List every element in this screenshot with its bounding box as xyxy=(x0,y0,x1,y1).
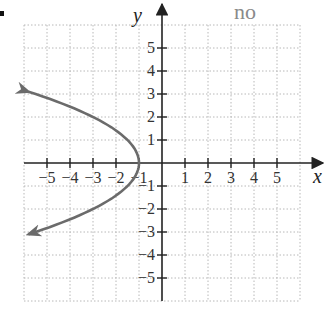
y-tick-label: 4 xyxy=(147,62,155,79)
x-tick-label: 2 xyxy=(204,169,212,186)
y-tick-label: 3 xyxy=(147,85,155,102)
y-tick-label: −2 xyxy=(138,200,155,217)
x-axis-label: x xyxy=(312,165,322,187)
graph: −5−4−3−2−11234554321−1−2−3−4−5 y x no xyxy=(0,0,326,316)
y-tick-label: −1 xyxy=(138,177,155,194)
y-tick-label: −5 xyxy=(138,269,155,286)
x-tick-label: −2 xyxy=(107,169,124,186)
x-tick-label: 1 xyxy=(181,169,189,186)
y-axis-label: y xyxy=(131,4,142,27)
y-tick-label: 2 xyxy=(147,108,155,125)
x-tick-label: 4 xyxy=(250,169,258,186)
bullet-mark xyxy=(0,11,4,16)
x-tick-label: 5 xyxy=(273,169,281,186)
y-tick-label: 5 xyxy=(147,39,155,56)
x-tick-label: 3 xyxy=(227,169,235,186)
y-tick-label: −4 xyxy=(138,246,155,263)
x-tick-label: −4 xyxy=(61,169,78,186)
x-tick-label: −3 xyxy=(84,169,101,186)
axes xyxy=(24,4,323,301)
y-tick-label: −3 xyxy=(138,223,155,240)
answer-label: no xyxy=(234,0,256,24)
x-tick-label: −5 xyxy=(38,169,55,186)
y-tick-label: 1 xyxy=(147,131,155,148)
